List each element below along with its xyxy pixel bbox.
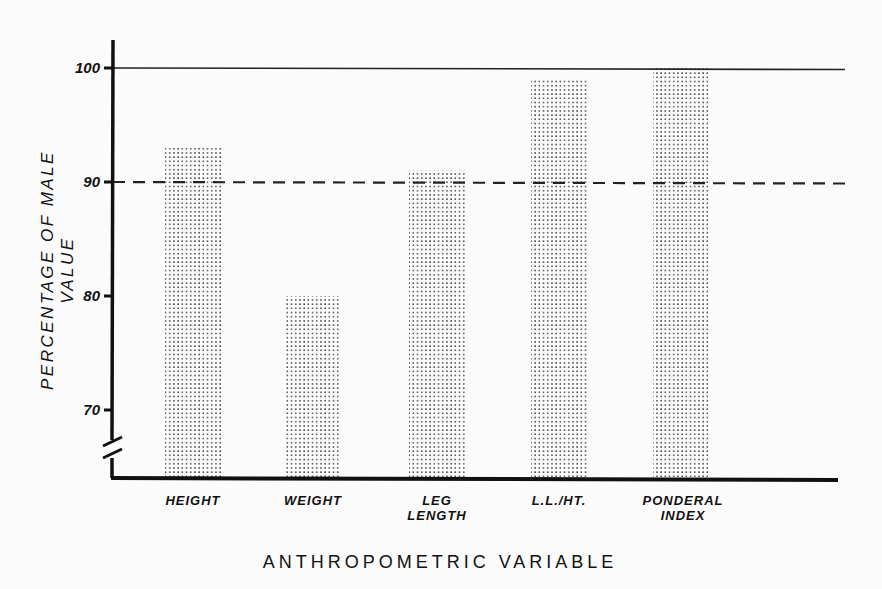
bar	[653, 68, 709, 477]
bar	[531, 79, 587, 477]
bar	[285, 296, 341, 477]
category-label: L.L./HT.	[504, 493, 614, 508]
y-tick-label: 70	[60, 401, 100, 418]
reference-lines	[113, 68, 845, 184]
y-tick-label: 100	[60, 59, 100, 76]
x-axis	[111, 478, 838, 480]
bar	[165, 148, 221, 477]
reference-line-100	[113, 68, 845, 70]
y-tick-label: 80	[60, 287, 100, 304]
bars-group	[165, 68, 709, 477]
category-label: LEGLENGTH	[382, 493, 492, 523]
category-label: PONDERALINDEX	[628, 493, 738, 523]
x-axis-label: ANTHROPOMETRIC VARIABLE	[240, 552, 640, 573]
axis-break-mark-2	[103, 449, 122, 458]
y-axis-upper	[112, 40, 113, 440]
y-tick-label: 90	[60, 173, 100, 190]
reference-line-90	[113, 182, 845, 184]
category-label: WEIGHT	[258, 493, 368, 508]
y-axis-label: PERCENTAGE OF MALE VALUE	[38, 120, 78, 420]
category-label: HEIGHT	[138, 493, 248, 508]
bar	[409, 171, 465, 477]
